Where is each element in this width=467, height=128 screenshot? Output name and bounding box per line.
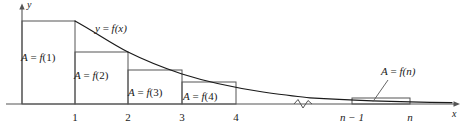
integral-test-figure: y x y = f(x) A = f(1) A = f(2) A = f(3) …	[0, 0, 467, 128]
x-axis-label: x	[452, 109, 456, 119]
tick-label-4: 4	[226, 112, 246, 123]
rect-label-fn-A: A	[381, 65, 388, 77]
rect-label-f1-A: A	[21, 51, 28, 63]
rect-label-f1: A = f(1)	[21, 52, 55, 63]
rect-label-f2-A: A	[74, 69, 81, 81]
tick-label-n-minus-1: n − 1	[330, 112, 374, 123]
tick-label-n: n	[400, 112, 420, 123]
tick-label-1: 1	[65, 112, 85, 123]
curve-label-arg: (x)	[115, 22, 127, 34]
rect-label-f3-arg: (3)	[150, 86, 163, 98]
figure-canvas	[0, 0, 467, 128]
rect-label-fn-arg: (n)	[403, 65, 416, 77]
rect-label-f2: A = f(2)	[74, 70, 108, 81]
y-axis-label: y	[27, 0, 31, 10]
curve-label: y = f(x)	[95, 23, 127, 34]
rect-label-f4-arg: (4)	[205, 90, 218, 102]
rect-label-f1-arg: (1)	[43, 51, 56, 63]
rect-label-f3-A: A	[128, 86, 135, 98]
axis-break-squiggle-icon	[293, 100, 313, 109]
rect-label-f2-arg: (2)	[96, 69, 109, 81]
rect-label-f3: A = f(3)	[128, 87, 162, 98]
tick-label-3: 3	[172, 112, 192, 123]
rect-label-f4-A: A	[183, 90, 190, 102]
rect-label-fn: A = f(n)	[381, 66, 415, 77]
rect-label-f4: A = f(4)	[183, 91, 217, 102]
tick-label-2: 2	[118, 112, 138, 123]
